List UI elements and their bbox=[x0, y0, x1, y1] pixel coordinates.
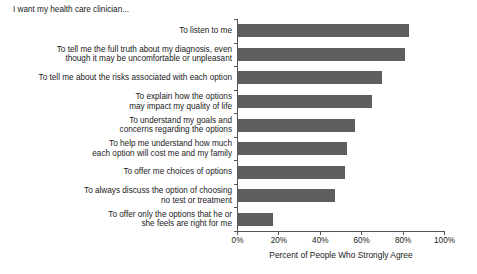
y-axis-tick bbox=[234, 43, 238, 44]
x-axis-tick bbox=[278, 231, 279, 235]
category-label: To listen to me bbox=[179, 26, 232, 36]
bar bbox=[238, 119, 356, 132]
y-axis-tick bbox=[234, 90, 238, 91]
category-label: To explain how the options may impact my… bbox=[129, 92, 232, 111]
bar bbox=[238, 166, 346, 179]
y-axis-tick bbox=[234, 184, 238, 185]
bar bbox=[238, 24, 410, 37]
x-axis-tick-label: 100% bbox=[434, 236, 455, 246]
x-axis-tick-label: 0% bbox=[232, 236, 244, 246]
x-axis-tick bbox=[361, 231, 362, 235]
chart-title: I want my health care clinician... bbox=[13, 5, 129, 15]
category-label: To tell me about the risks associated wi… bbox=[39, 73, 232, 83]
category-label: To understand my goals and concerns rega… bbox=[120, 116, 232, 135]
x-axis-tick bbox=[444, 231, 445, 235]
category-label: To offer me choices of options bbox=[123, 167, 232, 177]
bar bbox=[238, 71, 383, 84]
x-axis-title: Percent of People Who Strongly Agree bbox=[238, 250, 445, 261]
y-axis-tick bbox=[234, 19, 238, 20]
bar bbox=[238, 48, 406, 61]
x-axis-tick-label: 60% bbox=[353, 236, 369, 246]
category-label: To tell me the full truth about my diagn… bbox=[57, 45, 232, 64]
x-axis-tick bbox=[403, 231, 404, 235]
y-axis-tick bbox=[234, 66, 238, 67]
category-label: To offer only the options that he or she… bbox=[108, 210, 232, 229]
plot-area: 0%20%40%60%80%100% bbox=[238, 19, 445, 231]
category-label: To help me understand how much each opti… bbox=[92, 139, 232, 158]
category-label-column: To listen to meTo tell me the full truth… bbox=[0, 19, 232, 231]
category-label: To always discuss the option of choosing… bbox=[84, 186, 232, 205]
y-axis-tick bbox=[234, 160, 238, 161]
x-axis-tick-label: 40% bbox=[312, 236, 328, 246]
y-axis-tick bbox=[234, 137, 238, 138]
x-axis-tick-label: 80% bbox=[395, 236, 411, 246]
bar bbox=[238, 189, 335, 202]
chart-figure: I want my health care clinician... To li… bbox=[0, 0, 477, 274]
x-axis-tick-label: 20% bbox=[271, 236, 287, 246]
x-axis-tick bbox=[320, 231, 321, 235]
y-axis-tick bbox=[234, 207, 238, 208]
bar bbox=[238, 95, 373, 108]
bar bbox=[238, 142, 348, 155]
x-axis-line bbox=[237, 231, 445, 232]
y-axis-tick bbox=[234, 231, 238, 232]
y-axis-tick bbox=[234, 113, 238, 114]
bar bbox=[238, 213, 273, 226]
